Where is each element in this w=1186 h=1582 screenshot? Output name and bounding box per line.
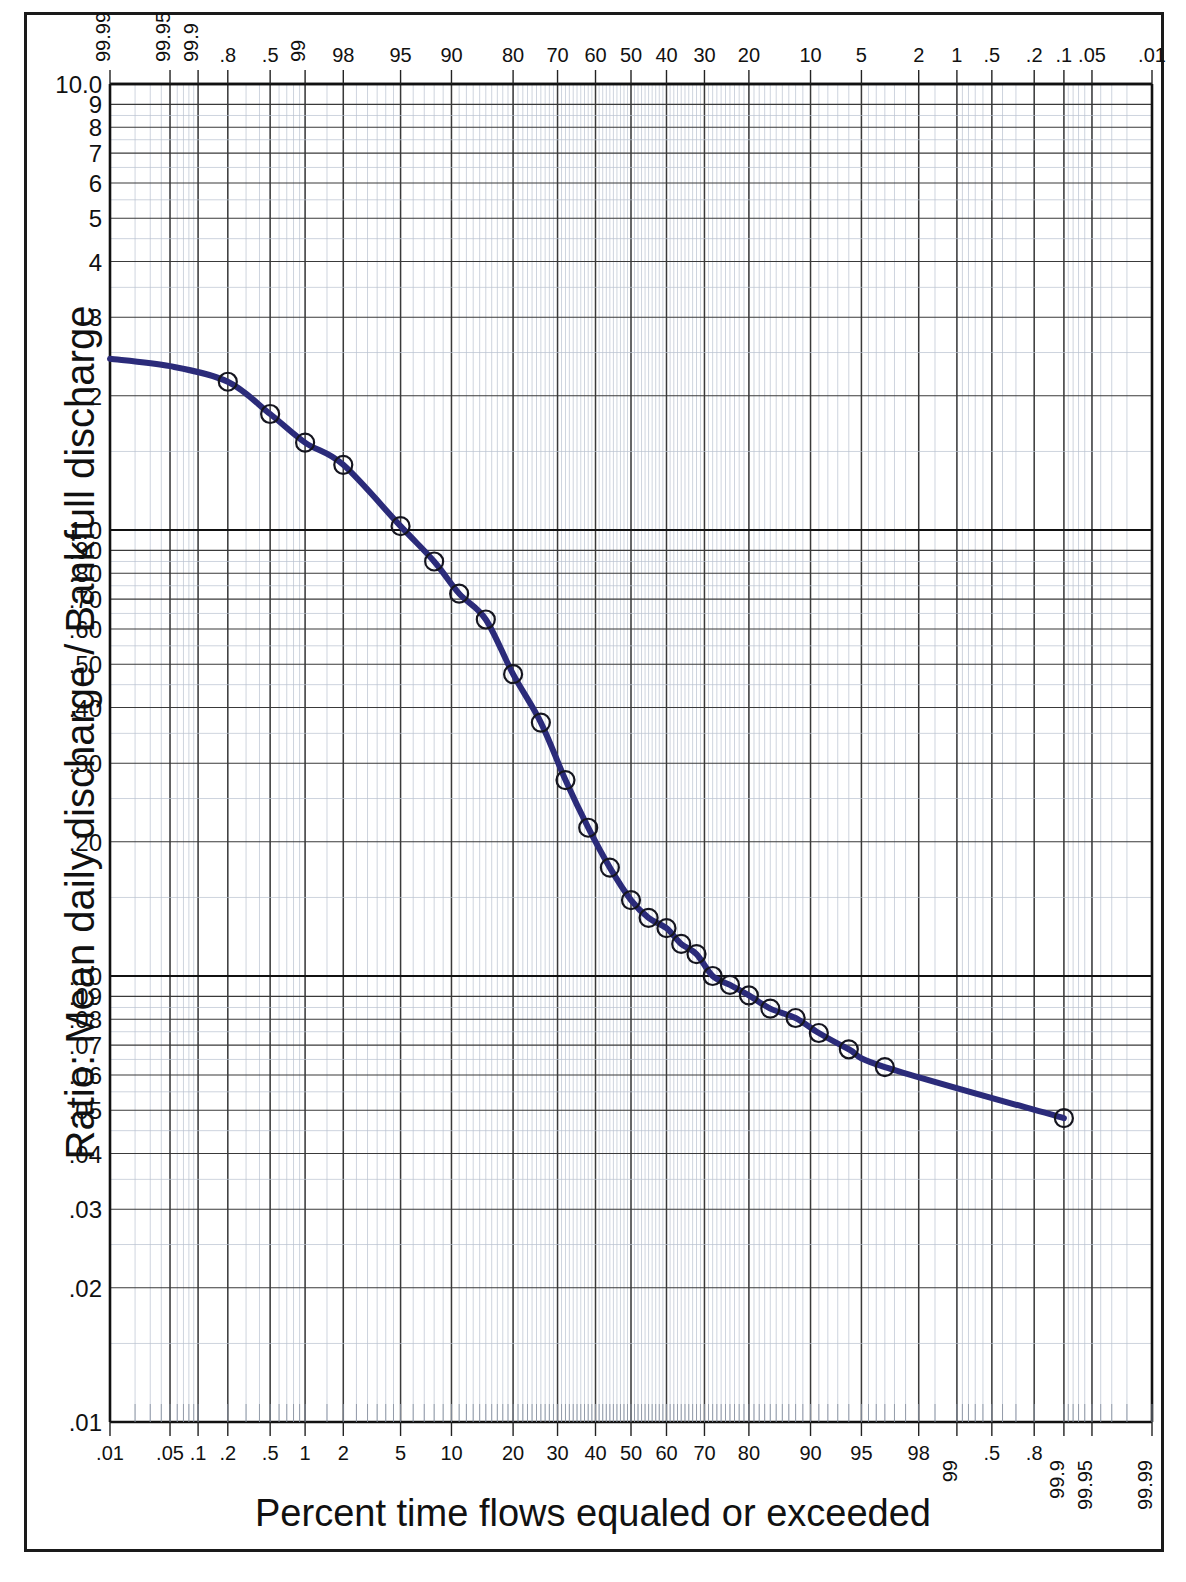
duration-curve-line xyxy=(110,359,1064,1118)
x-tick-label-bottom: .5 xyxy=(983,1442,1000,1464)
x-tick-label-top: 70 xyxy=(546,44,568,66)
x-tick-label-bottom: 70 xyxy=(693,1442,715,1464)
x-tick-label-top: 98 xyxy=(332,44,354,66)
x-tick-label-bottom: .1 xyxy=(190,1442,207,1464)
x-tick-label-top: .8 xyxy=(219,44,236,66)
x-tick-label-bottom: 99 xyxy=(939,1460,961,1482)
x-tick-label-top: 50 xyxy=(620,44,642,66)
x-tick-label-top: 2 xyxy=(913,44,924,66)
x-tick-label-bottom: 20 xyxy=(502,1442,524,1464)
x-tick-label-top: .1 xyxy=(1056,44,1073,66)
x-tick-label-bottom: 40 xyxy=(584,1442,606,1464)
x-tick-label-bottom: 2 xyxy=(338,1442,349,1464)
major-grid-vertical xyxy=(110,84,1152,1422)
y-tick-label: 7 xyxy=(89,140,102,167)
x-tick-label-bottom: 1 xyxy=(300,1442,311,1464)
y-tick-label: 5 xyxy=(89,205,102,232)
x-tick-label-bottom: 95 xyxy=(850,1442,872,1464)
x-tick-label-bottom: .2 xyxy=(219,1442,236,1464)
x-tick-label-bottom: .05 xyxy=(156,1442,184,1464)
y-tick-label: .02 xyxy=(69,1275,102,1302)
x-tick-label-top: 95 xyxy=(389,44,411,66)
x-tick-label-top: .5 xyxy=(262,44,279,66)
x-axis-top-labels: 99.9999.9599.9.8.59998959080706050403020… xyxy=(92,12,1166,66)
x-tick-label-top: 80 xyxy=(502,44,524,66)
x-tick-label-bottom: 50 xyxy=(620,1442,642,1464)
x-tick-label-bottom: 90 xyxy=(799,1442,821,1464)
y-tick-label: 8 xyxy=(89,114,102,141)
flow-duration-chart: 99.9999.9599.9.8.59998959080706050403020… xyxy=(0,0,1186,1582)
x-tick-label-top: 20 xyxy=(738,44,760,66)
x-axis-title: Percent time flows equaled or exceeded xyxy=(0,1492,1186,1535)
x-tick-label-bottom: 98 xyxy=(908,1442,930,1464)
x-tick-label-bottom: 5 xyxy=(395,1442,406,1464)
x-tick-label-top: 99.99 xyxy=(92,12,114,62)
x-tick-label-top: 5 xyxy=(856,44,867,66)
x-tick-label-top: 99.95 xyxy=(152,12,174,62)
y-tick-label: 6 xyxy=(89,170,102,197)
x-tick-label-top: 40 xyxy=(655,44,677,66)
x-tick-label-top: .05 xyxy=(1078,44,1106,66)
x-tick-label-bottom: .8 xyxy=(1026,1442,1043,1464)
data-curve-group xyxy=(110,359,1073,1127)
y-axis-title: Ratio: Mean daily discharge / Bankfull d… xyxy=(58,283,103,1183)
x-tick-label-top: .2 xyxy=(1026,44,1043,66)
x-tick-label-top: .5 xyxy=(983,44,1000,66)
x-tick-label-bottom: .5 xyxy=(262,1442,279,1464)
y-tick-label: .03 xyxy=(69,1196,102,1223)
x-tick-label-top: 99.9 xyxy=(180,23,202,62)
chart-page: 99.9999.9599.9.8.59998959080706050403020… xyxy=(0,0,1186,1582)
x-tick-label-top: 99 xyxy=(287,40,309,62)
x-tick-label-bottom: 80 xyxy=(738,1442,760,1464)
x-tick-label-bottom: 30 xyxy=(546,1442,568,1464)
x-tick-label-top: 1 xyxy=(951,44,962,66)
x-tick-label-bottom: 10 xyxy=(440,1442,462,1464)
x-tick-label-top: 60 xyxy=(584,44,606,66)
x-tick-label-top: 90 xyxy=(440,44,462,66)
x-tick-label-top: 30 xyxy=(693,44,715,66)
x-tick-label-bottom: 60 xyxy=(655,1442,677,1464)
x-tick-label-top: 10 xyxy=(799,44,821,66)
x-tick-label-bottom: .01 xyxy=(96,1442,124,1464)
x-tick-label-top: .01 xyxy=(1138,44,1166,66)
y-tick-label: 4 xyxy=(89,249,102,276)
y-tick-label: .01 xyxy=(69,1409,102,1436)
